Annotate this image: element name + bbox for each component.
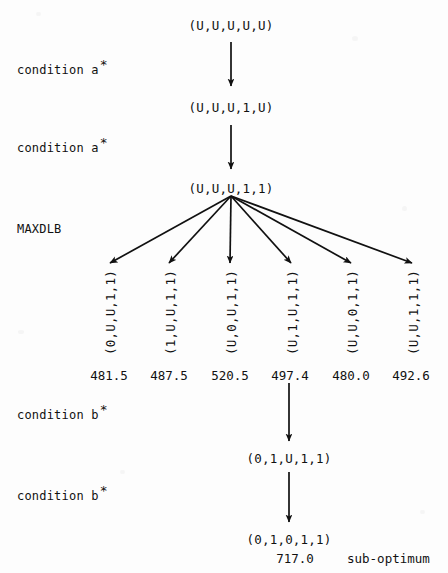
side-label-condition-b-2-text: condition b xyxy=(17,489,99,503)
sub-optimum-annotation: sub-optimum xyxy=(347,551,430,566)
branch-value-6: 492.6 xyxy=(392,368,430,383)
branch-value-1: 481.5 xyxy=(90,368,128,383)
superscript-star-icon: * xyxy=(100,57,108,72)
scan-speck xyxy=(18,330,24,334)
scan-speck xyxy=(352,36,358,41)
superscript-star-icon: * xyxy=(100,402,108,417)
branch-label-1: (0,U,U,1,1) xyxy=(103,270,118,355)
side-label-condition-b-2: condition b* xyxy=(17,489,108,503)
side-label-condition-a-2-text: condition a xyxy=(17,141,99,155)
branch-value-4: 497.4 xyxy=(271,368,309,383)
branch-value-5: 480.0 xyxy=(332,368,370,383)
superscript-star-icon: * xyxy=(100,135,108,150)
node-root: (U,U,U,U,U) xyxy=(189,18,274,33)
side-label-condition-a-1: condition a* xyxy=(17,63,108,77)
branch-value-2: 487.5 xyxy=(150,368,188,383)
scan-speck xyxy=(402,206,407,211)
final-value: 717.0 xyxy=(276,551,314,566)
node-level1: (U,U,U,1,U) xyxy=(189,100,274,115)
branch-label-2: (1,U,U,1,1) xyxy=(163,270,178,355)
branch-label-4: (U,1,U,1,1) xyxy=(285,270,300,355)
scan-speck xyxy=(36,12,41,16)
edge-branch-6 xyxy=(231,196,412,263)
node-level5: (0,1,0,1,1) xyxy=(247,532,332,547)
branch-value-3: 520.5 xyxy=(211,368,249,383)
branch-label-3: (U,0,U,1,1) xyxy=(224,270,239,355)
branch-label-5: (U,U,0,1,1) xyxy=(345,270,360,355)
scan-speck xyxy=(120,470,125,474)
edge-branch-4 xyxy=(231,196,291,263)
side-label-condition-a-2: condition a* xyxy=(17,141,108,155)
node-level4: (0,1,U,1,1) xyxy=(247,451,332,466)
edge-branch-5 xyxy=(231,196,351,263)
side-label-condition-a-1-text: condition a xyxy=(17,63,99,77)
diagram-canvas: (U,U,U,U,U) (U,U,U,1,U) (U,U,U,1,1) (0,1… xyxy=(0,0,448,573)
scan-speck xyxy=(420,510,425,514)
side-label-maxdlb: MAXDLB xyxy=(17,222,62,236)
branch-label-6: (U,U,1,1,1) xyxy=(406,270,421,355)
side-label-condition-b-1: condition b* xyxy=(17,408,108,422)
edge-branch-2 xyxy=(169,196,231,263)
edge-branch-3 xyxy=(230,196,231,263)
node-level2: (U,U,U,1,1) xyxy=(189,181,274,196)
side-label-condition-b-1-text: condition b xyxy=(17,408,99,422)
edge-branch-1 xyxy=(110,196,231,263)
superscript-star-icon: * xyxy=(100,483,108,498)
